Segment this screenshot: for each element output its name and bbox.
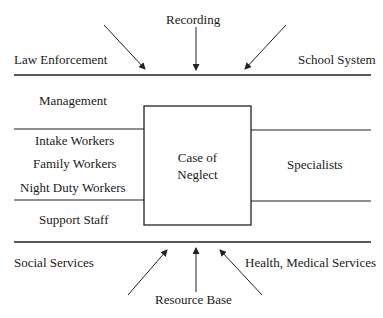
health-medical-services-label: Health, Medical Services bbox=[245, 255, 376, 270]
law-enforcement-label: Law Enforcement bbox=[14, 52, 107, 67]
management-label: Management bbox=[39, 93, 107, 108]
recording-label: Recording bbox=[166, 12, 220, 27]
resource-base-label: Resource Base bbox=[155, 292, 232, 307]
intake-workers-label: Intake Workers bbox=[35, 133, 114, 148]
social-services-label: Social Services bbox=[14, 255, 94, 270]
case-of-neglect: Case of Neglect bbox=[144, 106, 251, 225]
arrow-top-right bbox=[245, 25, 286, 69]
case-line-2: Neglect bbox=[177, 166, 217, 183]
case-line-1: Case of bbox=[178, 149, 217, 166]
arrow-top-left bbox=[104, 25, 145, 69]
arrow-bottom-left bbox=[128, 250, 167, 295]
school-system-label: School System bbox=[298, 52, 376, 67]
specialists-label: Specialists bbox=[287, 157, 343, 172]
support-staff-label: Support Staff bbox=[39, 212, 108, 227]
night-duty-workers-label: Night Duty Workers bbox=[20, 180, 126, 195]
family-workers-label: Family Workers bbox=[33, 156, 117, 171]
